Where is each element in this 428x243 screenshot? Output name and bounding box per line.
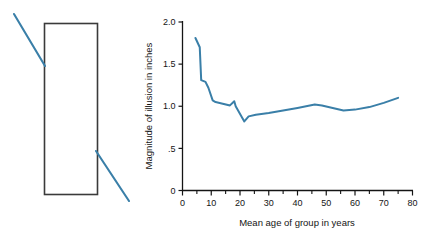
x-tick-label: 60 bbox=[350, 198, 360, 208]
data-series-line bbox=[195, 38, 398, 121]
x-tick-label: 0 bbox=[180, 198, 185, 208]
figure-container: 0.51.01.52.0 01020304050607080 Mean age … bbox=[0, 0, 428, 243]
x-tick-label: 10 bbox=[206, 198, 216, 208]
x-tick-label: 40 bbox=[292, 198, 302, 208]
y-tick-label: 2.0 bbox=[163, 17, 176, 27]
x-axis-major-ticks bbox=[183, 191, 413, 196]
x-tick-label: 80 bbox=[407, 198, 417, 208]
lower-right-oblique-line bbox=[96, 151, 129, 201]
figure-svg: 0.51.01.52.0 01020304050607080 Mean age … bbox=[0, 0, 428, 243]
y-axis-title: Magnitude of illusion in inches bbox=[143, 42, 154, 169]
x-axis-title: Mean age of group in years bbox=[239, 217, 355, 228]
upper-left-oblique-line bbox=[14, 14, 45, 66]
y-tick-label: 0 bbox=[170, 186, 175, 196]
x-tick-label: 30 bbox=[264, 198, 274, 208]
y-axis-tick-labels: 0.51.01.52.0 bbox=[163, 17, 176, 196]
illusion-rectangle bbox=[45, 24, 98, 195]
x-tick-label: 70 bbox=[379, 198, 389, 208]
y-tick-label: 1.5 bbox=[163, 59, 176, 69]
line-chart-panel: 0.51.01.52.0 01020304050607080 Mean age … bbox=[143, 17, 418, 228]
y-tick-label: 1.0 bbox=[163, 101, 176, 111]
x-tick-label: 50 bbox=[321, 198, 331, 208]
y-tick-label: .5 bbox=[168, 144, 176, 154]
x-axis-tick-labels: 01020304050607080 bbox=[180, 198, 418, 208]
x-tick-label: 20 bbox=[235, 198, 245, 208]
poggendorff-illusion-panel bbox=[14, 14, 129, 201]
